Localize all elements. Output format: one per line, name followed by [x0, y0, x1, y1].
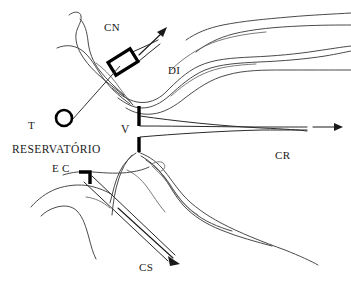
bottom-outlet-group — [79, 172, 180, 266]
cs-channel-edge-left — [84, 182, 168, 261]
intake-tower-group — [56, 66, 120, 126]
spillway-center-line — [140, 126, 307, 127]
dam-spillway-group — [139, 106, 307, 152]
contour-group-valley-upper — [112, 46, 351, 114]
label-cr: CR — [275, 150, 290, 161]
label-t: T — [28, 120, 35, 131]
cs-channel-edge-right — [92, 176, 175, 255]
contour-line — [110, 153, 136, 203]
cn-flow-arrowhead — [157, 27, 167, 37]
dam-schematic-figure: CN DI T RESERVATÓRIO E C V CR CS — [0, 0, 351, 284]
diversion-gate-icon — [108, 49, 138, 75]
label-cs: CS — [139, 262, 153, 273]
contour-line — [196, 25, 351, 52]
contour-line — [141, 156, 272, 246]
contour-line — [63, 167, 149, 175]
contour-line — [126, 70, 351, 114]
contour-group-valley-lower — [110, 152, 318, 265]
tower-icon — [56, 110, 72, 126]
cr-flow-arrowhead — [334, 123, 343, 131]
contour-line — [118, 51, 351, 108]
cs-flow-arrowhead — [168, 256, 180, 266]
contour-line — [146, 160, 232, 231]
cs-flow-arrow-shaft — [118, 208, 173, 258]
spillway-edge-lower — [140, 130, 307, 137]
tower-connection-line — [72, 66, 120, 120]
diagram-canvas — [0, 0, 351, 284]
spillway-edge-upper — [140, 116, 307, 131]
restitution-flow-arrow — [313, 123, 343, 131]
contour-line — [138, 152, 318, 265]
diversion-channel-cn — [108, 27, 167, 75]
label-ec: E C — [52, 163, 70, 174]
contour-line — [41, 206, 96, 259]
label-di: DI — [168, 65, 180, 76]
label-reservoir: RESERVATÓRIO — [12, 144, 101, 156]
contour-line — [186, 13, 351, 40]
label-cn: CN — [104, 22, 120, 33]
label-v: V — [121, 124, 130, 136]
contour-line — [152, 166, 198, 215]
contour-line — [127, 170, 165, 212]
